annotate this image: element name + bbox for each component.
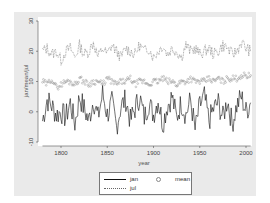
y-tick-label: 0: [28, 109, 34, 113]
dotted-line-icon: [104, 188, 126, 189]
x-tick-label: 1850: [101, 150, 115, 156]
legend-label-jul: jul: [130, 185, 136, 191]
x-axis-title: year: [138, 160, 150, 166]
legend-item-jul: jul: [104, 185, 136, 191]
y-axis-title: jan/mean/jul: [23, 65, 29, 98]
circle-marker-icon: [156, 177, 161, 182]
legend: jan mean jul: [99, 172, 192, 195]
legend-label-mean: mean: [175, 176, 190, 182]
y-tick-label: 30: [28, 17, 34, 24]
solid-line-icon: [104, 179, 126, 180]
x-tick-label: 1950: [193, 150, 207, 156]
legend-item-jan: jan: [104, 176, 138, 182]
x-tick-label: 1800: [54, 150, 68, 156]
legend-label-jan: jan: [130, 176, 138, 182]
x-tick-label: 2000: [239, 150, 253, 156]
y-tick-label: -10: [28, 137, 34, 146]
plot-area: [38, 17, 252, 146]
legend-item-mean: mean: [156, 176, 190, 182]
y-tick-label: 20: [28, 47, 34, 54]
x-tick-label: 1900: [147, 150, 161, 156]
